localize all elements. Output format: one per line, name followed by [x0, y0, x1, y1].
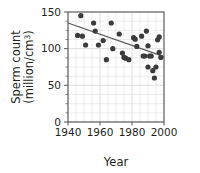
- y-axis-title-line1: Sperm count: [9, 30, 23, 104]
- data-point: [134, 44, 139, 49]
- data-point: [104, 57, 109, 62]
- data-point: [158, 55, 163, 60]
- data-point: [145, 43, 150, 48]
- data-point: [144, 28, 149, 33]
- chart-canvas: 1940196019802000 050100150 Year Sperm co…: [0, 0, 200, 173]
- y-axis-units-prefix: (million/cm: [22, 40, 36, 104]
- data-point: [78, 13, 83, 18]
- data-point: [109, 20, 114, 25]
- data-point: [145, 64, 150, 69]
- data-point: [96, 42, 101, 47]
- y-tick-label: 50: [48, 79, 61, 91]
- x-tick-label: 2000: [151, 126, 178, 138]
- data-point: [83, 42, 88, 47]
- data-point: [93, 28, 98, 33]
- data-point: [75, 33, 80, 38]
- y-tick-label: 0: [54, 116, 61, 128]
- data-point: [149, 53, 154, 58]
- data-point: [152, 75, 157, 80]
- data-point: [133, 37, 138, 42]
- data-point: [110, 46, 115, 51]
- x-tick-label: 1960: [87, 126, 114, 138]
- data-point: [91, 20, 96, 25]
- data-point: [157, 50, 162, 55]
- y-axis-units-suffix: ): [22, 30, 36, 35]
- data-point: [101, 38, 106, 43]
- data-point: [157, 34, 162, 39]
- sperm-count-scatter-figure: 1940196019802000 050100150 Year Sperm co…: [0, 0, 200, 173]
- x-tick-label: 1940: [55, 126, 82, 138]
- x-axis-title: Year: [103, 155, 129, 169]
- data-point: [153, 64, 158, 69]
- y-tick-label: 150: [41, 6, 61, 18]
- data-point: [80, 34, 85, 39]
- data-point: [126, 57, 131, 62]
- x-tick-labels: 1940196019802000: [55, 126, 178, 138]
- y-tick-labels: 050100150: [41, 6, 61, 128]
- y-tick-label: 100: [41, 42, 61, 54]
- data-point: [117, 31, 122, 36]
- data-point: [139, 34, 144, 39]
- y-axis-title-line2: (million/cm3): [22, 30, 36, 103]
- x-tick-label: 1980: [119, 126, 146, 138]
- data-point: [142, 53, 147, 58]
